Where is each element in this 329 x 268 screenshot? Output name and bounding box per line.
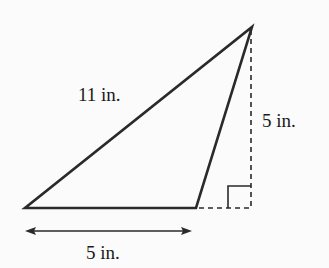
slant-side-label: 11 in. bbox=[78, 84, 121, 105]
triangle-diagram: 11 in. 5 in. 5 in. bbox=[0, 0, 329, 268]
triangle-shape bbox=[25, 27, 252, 208]
height-label: 5 in. bbox=[262, 110, 296, 131]
base-label: 5 in. bbox=[86, 242, 120, 263]
right-angle-marker bbox=[228, 186, 251, 208]
